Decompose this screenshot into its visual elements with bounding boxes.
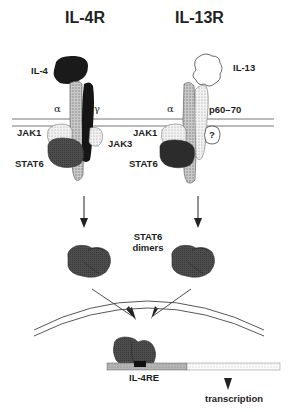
il13r-title: IL-13R: [175, 9, 224, 27]
nuclear-envelope: [34, 301, 264, 336]
left-stat6-label: STAT6: [15, 158, 44, 169]
stat6-dimer-right: [172, 245, 215, 277]
jak3-shape: [89, 128, 103, 147]
il4-label: IL-4: [31, 65, 48, 76]
right-jak1-label: JAK1: [133, 127, 157, 138]
il13-label: IL-13: [233, 62, 255, 73]
unknown-kinase-label: ?: [209, 129, 215, 140]
transcription-arrow: [224, 378, 232, 390]
il4re-binding-site: [134, 361, 146, 367]
left-alpha-label: α: [54, 103, 61, 114]
right-alpha-label: α: [167, 103, 174, 114]
transcription-label: transcription: [205, 393, 263, 404]
il4re-label: IL-4RE: [129, 372, 159, 383]
il4-ligand-shape: [54, 56, 88, 84]
stat6-dimers-label-line2: dimers: [128, 242, 168, 253]
stat6-shape-right: [160, 140, 195, 168]
p60-70-label: p60–70: [209, 104, 241, 115]
gamma-chain: [82, 82, 94, 162]
stat6-dimer-left: [68, 245, 111, 277]
gamma-label: γ: [94, 103, 100, 114]
il4-il13-signaling-diagram: IL-4R IL-13R IL-4 α γ JAK1 JAK3 STAT6 IL…: [0, 0, 292, 412]
il4-receptor-complex: [47, 56, 102, 181]
stat6-dimers-label-line1: STAT6: [128, 231, 168, 242]
left-jak1-label: JAK1: [17, 127, 41, 138]
il4r-title: IL-4R: [65, 9, 105, 27]
p60-70-chain: [195, 86, 208, 160]
activation-arrows: [80, 196, 202, 228]
stat6-shape-left: [48, 138, 84, 168]
right-stat6-label: STAT6: [129, 158, 158, 169]
jak3-label: JAK3: [108, 138, 132, 149]
il13-ligand-shape: [193, 54, 222, 86]
plasma-membrane: [12, 119, 274, 126]
